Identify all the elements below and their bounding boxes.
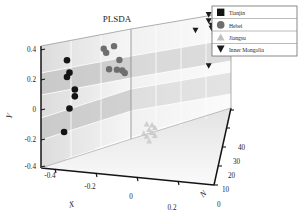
data-point	[64, 74, 71, 81]
legend-item-jiangsu[interactable]: Jiangsu	[217, 33, 246, 41]
legend-label-tianjin: Tianjin	[229, 10, 245, 16]
y-tick-label-3: -0.2	[25, 136, 37, 144]
x-tick-label-0: -0.4	[44, 172, 56, 180]
x-tick-label-3: 0.2	[168, 204, 177, 212]
legend-label-hebei: Hebei	[229, 23, 243, 29]
data-point	[64, 57, 71, 64]
y-tick-label-2: 0	[32, 106, 36, 114]
y-axis-label: Y	[5, 111, 15, 119]
data-point	[72, 86, 79, 93]
x-axis-label: X	[67, 199, 76, 209]
z-axis-label: N	[197, 189, 208, 200]
x-tick-label-1: -0.2	[84, 183, 96, 191]
legend-item-hebei[interactable]: Hebei	[217, 21, 243, 29]
legend-label-jiangsu: Jiangsu	[229, 35, 246, 41]
data-point	[111, 43, 117, 49]
chart-canvas: 0.4 0.2 0 -0.2 -0.4 -0.4 -0.2 0 0.2 0 10…	[0, 0, 300, 221]
data-point	[114, 66, 120, 72]
y-axis-tick-labels: 0.4 0.2 0 -0.2 -0.4	[25, 46, 37, 171]
legend-item-tianjin[interactable]: Tianjin	[217, 9, 245, 17]
y-tick-label-4: -0.4	[25, 163, 37, 171]
data-point	[122, 70, 128, 76]
data-point	[116, 57, 122, 63]
z-tick-label-4: 40	[238, 144, 246, 152]
legend-box[interactable]: Tianjin Hebei Jiangsu Inner Mongolia	[212, 6, 297, 56]
z-tick-label-1: 10	[222, 186, 230, 194]
z-tick-label-0: 0	[217, 201, 221, 209]
data-point	[103, 49, 109, 55]
data-point	[61, 129, 68, 136]
x-tick-label-2: 0	[129, 193, 133, 201]
z-tick-label-2: 20	[228, 172, 236, 180]
z-tick-label-3: 30	[233, 158, 241, 166]
y-tick-label-0: 0.4	[27, 46, 36, 54]
data-point	[72, 93, 79, 100]
legend-square-icon	[217, 9, 224, 16]
plsda-3d-scatter-figure: 0.4 0.2 0 -0.2 -0.4 -0.4 -0.2 0 0.2 0 10…	[0, 0, 300, 221]
legend-label-inner-mongolia: Inner Mongolia	[229, 47, 264, 53]
y-tick-label-1: 0.2	[27, 76, 36, 84]
chart-title: PLSDA	[103, 14, 132, 24]
data-point	[106, 66, 112, 72]
legend-circle-icon	[217, 21, 225, 29]
data-point	[66, 105, 73, 112]
